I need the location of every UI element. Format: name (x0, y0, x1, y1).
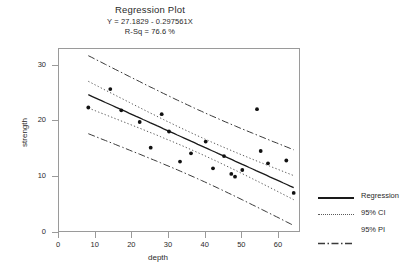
regression-line-key (318, 197, 354, 199)
x-tick-label: 40 (193, 240, 217, 249)
fitted-regression-line (88, 95, 293, 188)
legend-label: Regression (361, 191, 399, 200)
data-point (178, 160, 182, 164)
ci-band-key (318, 214, 354, 215)
data-point (119, 108, 123, 112)
data-point (86, 106, 90, 110)
plot-canvas (59, 49, 301, 233)
y-axis-label: strength (20, 103, 29, 163)
data-point (259, 149, 263, 153)
y-tick-label: 10 (20, 171, 46, 180)
legend-label: 95% PI (361, 225, 385, 234)
data-point (284, 159, 288, 163)
x-tick-label: 30 (156, 240, 180, 249)
y-tick-label: 30 (20, 60, 46, 69)
dashdot-key-glyph (318, 242, 354, 245)
data-point (160, 112, 164, 116)
data-point (292, 191, 296, 195)
plot-area (58, 48, 300, 232)
x-tick-label: 0 (46, 240, 70, 249)
data-point (204, 140, 208, 144)
data-point (108, 87, 112, 91)
legend: Regression95% CI95% PI (318, 190, 410, 241)
x-tick-label: 50 (229, 240, 253, 249)
x-tick-label: 60 (266, 240, 290, 249)
data-point (233, 175, 237, 179)
regression-plot-figure: Regression Plot Y = 27.1829 - 0.297561X … (0, 0, 411, 277)
y-tick-label: 0 (20, 227, 46, 236)
legend-item: 95% PI (318, 224, 410, 241)
data-point (211, 166, 215, 170)
r-squared-value: R-Sq = 76.6 % (0, 27, 300, 36)
pi-upper-line (88, 56, 293, 150)
legend-item: 95% CI (318, 207, 410, 224)
legend-label: 95% CI (361, 208, 386, 217)
data-point (255, 107, 259, 111)
data-point (138, 120, 142, 124)
data-point (266, 161, 270, 165)
ci-upper-line (88, 81, 293, 175)
regression-line (88, 95, 293, 188)
x-tick-label: 20 (119, 240, 143, 249)
pi-lower-line (88, 134, 293, 226)
regression-equation: Y = 27.1829 - 0.297561X (0, 17, 300, 26)
y-tick-label: 20 (20, 115, 46, 124)
page-title: Regression Plot (0, 4, 300, 15)
data-point (240, 168, 244, 172)
x-tick-label: 10 (83, 240, 107, 249)
data-point (222, 154, 226, 158)
data-point (229, 172, 233, 176)
data-point (167, 130, 171, 134)
x-axis-label: depth (118, 253, 198, 262)
data-point (149, 146, 153, 150)
legend-item: Regression (318, 190, 410, 207)
data-point (189, 151, 193, 155)
